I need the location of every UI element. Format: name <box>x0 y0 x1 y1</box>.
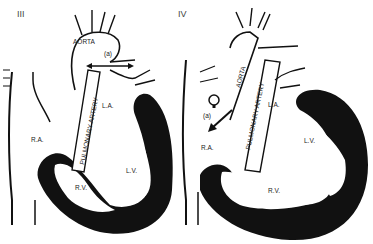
annotation-a: (a) <box>203 112 211 120</box>
panel-iii: III AORTA (a) L.A. R.A. R.V. L.V. PULMON… <box>3 9 173 234</box>
annotation-a: (a) <box>104 50 112 58</box>
la-outline <box>110 70 155 85</box>
aorta-label: AORTA <box>73 38 95 45</box>
vessel-branches <box>3 70 10 86</box>
panel-numeral: III <box>17 9 25 19</box>
panel-numeral: IV <box>178 9 187 19</box>
shunt-arrow <box>212 110 232 128</box>
lv-label: L.V. <box>304 137 315 144</box>
panel-iv: IV AORTA (a) L.A. R.A. R.V. L.V. PULMONA… <box>178 8 368 240</box>
rv-label: R.V. <box>268 187 280 194</box>
la-label: L.A. <box>102 102 114 109</box>
heart-diagram: III AORTA (a) L.A. R.A. R.V. L.V. PULMON… <box>0 0 373 244</box>
ra-label: R.A. <box>31 136 44 143</box>
rv-label: R.V. <box>75 184 87 191</box>
ra-outline <box>9 72 12 225</box>
ra-label: R.A. <box>201 144 214 151</box>
la-label: L.A. <box>268 101 280 108</box>
lv-label: L.V. <box>126 167 137 174</box>
